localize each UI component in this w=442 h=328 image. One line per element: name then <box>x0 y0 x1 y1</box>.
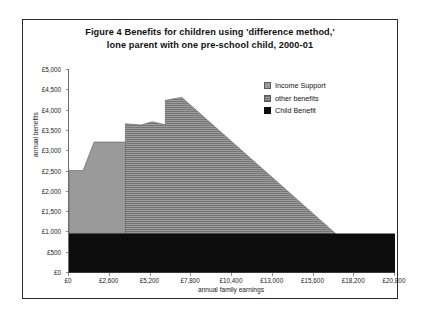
legend-label-other-benefits: other benefits <box>275 94 319 103</box>
x-axis-tick-label: £5,200 <box>140 277 159 284</box>
x-axis-tick-label: £15,600 <box>301 277 324 284</box>
x-axis-title: annual family earnings <box>68 286 394 293</box>
other-benefits-swatch-icon <box>264 95 271 102</box>
x-axis-tick-mark <box>150 273 151 276</box>
legend-item-child-benefit[interactable]: Child Benefit <box>264 106 374 115</box>
area-income-support <box>69 142 125 233</box>
y-axis-tick-label: £500 <box>47 248 66 255</box>
x-axis-tick-label: £10,400 <box>220 277 243 284</box>
legend-label-child-benefit: Child Benefit <box>275 106 316 115</box>
y-axis-tick-label: £0 <box>54 269 66 276</box>
x-axis-tick-label: £20,800 <box>383 277 406 284</box>
y-axis-tick-label: £1,500 <box>42 208 66 215</box>
y-axis-tick-label: £3,500 <box>42 126 66 133</box>
x-axis: £0£2,600£5,200£7,800£10,400£13,000£15,60… <box>68 273 394 287</box>
x-axis-tick-mark <box>353 273 354 276</box>
chart-legend: Income Support other benefits Child Bene… <box>264 81 374 119</box>
y-axis: £0£500£1,000£1,500£2,000£2,500£3,000£3,5… <box>23 69 66 272</box>
y-axis-title: annual benefits <box>32 90 39 180</box>
x-axis-tick-mark <box>394 273 395 276</box>
x-axis-tick-label: £2,600 <box>99 277 118 284</box>
chart-canvas: £0£500£1,000£1,500£2,000£2,500£3,000£3,5… <box>23 20 399 300</box>
y-axis-tick-label: £2,000 <box>42 187 66 194</box>
x-axis-tick-label: £18,200 <box>342 277 365 284</box>
legend-item-other-benefits[interactable]: other benefits <box>264 94 374 103</box>
x-axis-tick-mark <box>190 273 191 276</box>
x-axis-tick-label: £7,800 <box>181 277 200 284</box>
figure-frame: Figure 4 Benefits for children using 'di… <box>22 19 398 299</box>
x-axis-tick-mark <box>272 273 273 276</box>
x-axis-tick-mark <box>231 273 232 276</box>
legend-item-income-support[interactable]: Income Support <box>264 81 374 90</box>
x-axis-tick-mark <box>109 273 110 276</box>
legend-label-income-support: Income Support <box>275 81 326 90</box>
x-axis-tick-mark <box>68 273 69 276</box>
y-axis-tick-label: £2,500 <box>42 167 66 174</box>
y-axis-tick-label: £1,000 <box>42 228 66 235</box>
y-axis-tick-label: £4,500 <box>42 86 66 93</box>
y-axis-tick-label: £5,000 <box>42 66 66 73</box>
income-support-swatch-icon <box>264 82 271 89</box>
x-axis-tick-mark <box>313 273 314 276</box>
x-axis-tick-label: £13,000 <box>260 277 283 284</box>
x-axis-tick-label: £0 <box>64 277 71 284</box>
y-axis-tick-label: £4,000 <box>42 106 66 113</box>
child-benefit-swatch-icon <box>264 107 271 114</box>
area-child-benefit <box>69 233 395 272</box>
y-axis-tick-label: £3,000 <box>42 147 66 154</box>
